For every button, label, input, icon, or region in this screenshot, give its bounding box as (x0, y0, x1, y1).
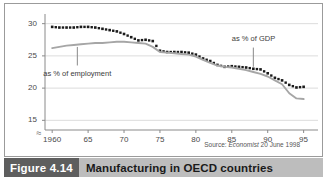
data-point-marker (144, 38, 147, 41)
data-point-marker (108, 29, 111, 32)
data-point-marker (288, 84, 291, 87)
data-point-marker (155, 45, 157, 47)
data-point-marker (119, 31, 121, 33)
y-tick-label: 15 (15, 116, 37, 124)
data-point-marker (62, 26, 64, 28)
chart-panel: 15202530 196065707580859095 as % of empl… (4, 3, 323, 157)
data-point-marker (112, 30, 114, 32)
data-point-marker (295, 86, 298, 89)
data-point-marker (141, 39, 143, 41)
x-tick-label: 75 (145, 136, 175, 144)
data-point-marker (256, 68, 258, 70)
y-tick-label: 30 (15, 20, 37, 28)
data-point-marker (277, 78, 279, 80)
annotation-leader-lines-group (77, 47, 253, 67)
figure-container: 15202530 196065707580859095 as % of empl… (0, 0, 327, 178)
figure-number-badge: Figure 4.14 (4, 158, 79, 177)
x-tick-label: 65 (73, 136, 103, 144)
series-annotation-label: as % of GDP (232, 35, 275, 43)
chart-plot-area (5, 4, 322, 156)
source-note: Source: Economist 20 June 1998 (204, 142, 300, 149)
data-point-marker (299, 86, 301, 88)
data-point-marker (137, 39, 140, 42)
data-point-marker (284, 81, 286, 83)
data-point-marker (105, 28, 107, 30)
data-point-marker (123, 33, 126, 36)
data-point-marker (51, 26, 54, 29)
data-point-marker (281, 79, 284, 82)
data-point-marker (55, 26, 57, 28)
x-tick-label: 70 (109, 136, 139, 144)
line-chart-svg (5, 4, 322, 156)
data-point-marker (292, 85, 294, 87)
data-point-marker (266, 72, 269, 75)
data-point-marker (274, 77, 277, 80)
data-point-marker (249, 67, 251, 69)
data-point-marker (263, 70, 265, 72)
data-point-marker (252, 67, 255, 70)
series-annotation-label: as % of employment (43, 70, 111, 78)
data-point-marker (101, 28, 104, 31)
data-point-marker (76, 26, 78, 28)
data-point-marker (80, 26, 83, 29)
x-tick-label: 1960 (37, 136, 67, 144)
y-tick-label: 20 (15, 84, 37, 92)
data-point-marker (58, 26, 61, 29)
y-tick-label: 25 (15, 52, 37, 60)
data-point-marker (270, 74, 272, 76)
data-point-marker (116, 30, 119, 33)
data-point-marker (241, 66, 243, 68)
data-point-marker (126, 34, 128, 36)
figure-caption-title: Manufacturing in OECD countries (79, 162, 273, 174)
data-point-marker (91, 26, 93, 28)
data-point-marker (94, 26, 97, 29)
source-date: 20 June 1998 (261, 141, 300, 148)
source-prefix: Source: (204, 141, 226, 148)
data-point-marker (134, 38, 136, 40)
data-point-marker (83, 26, 85, 28)
data-point-marker (302, 86, 305, 89)
data-point-marker (130, 36, 133, 39)
data-point-marker (87, 26, 90, 29)
data-point-marker (148, 39, 150, 41)
data-point-marker (69, 26, 71, 28)
data-point-marker (98, 27, 100, 29)
source-publication: Economist (228, 141, 258, 148)
data-point-marker (259, 68, 262, 71)
axis-break-icon: ≈ (36, 129, 41, 138)
data-point-marker (184, 51, 186, 53)
figure-caption-bar: Figure 4.14 Manufacturing in OECD countr… (4, 158, 323, 177)
data-point-marker (151, 40, 154, 43)
data-point-marker (72, 26, 75, 29)
data-point-marker (245, 66, 248, 69)
data-point-marker (65, 26, 68, 29)
